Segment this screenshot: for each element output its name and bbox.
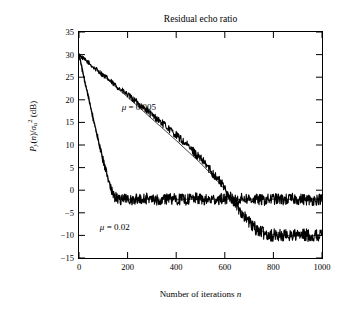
x-tick-label: 800 <box>267 262 280 272</box>
x-axis-label: Number of iterations n <box>78 289 323 299</box>
y-tick-label: −10 <box>48 230 74 240</box>
series-path <box>79 53 322 241</box>
series-path <box>79 55 322 236</box>
curve-annotation: μ = 0.005 <box>122 102 156 112</box>
figure-container: Residual echo ratio Py(n)/σu2 (dB) Numbe… <box>0 0 352 319</box>
y-tick-label: 30 <box>48 50 74 60</box>
curve-annotation: μ = 0.02 <box>100 222 130 232</box>
x-tick-label: 1000 <box>314 262 331 272</box>
y-tick-label: 15 <box>48 117 74 127</box>
y-tick-label: 0 <box>48 185 74 195</box>
series-path <box>79 55 322 205</box>
y-tick-label: −15 <box>48 253 74 263</box>
series-path <box>79 55 322 200</box>
x-tick-label: 400 <box>170 262 183 272</box>
x-tick-label: 200 <box>121 262 134 272</box>
y-axis-label: Py(n)/σu2 (dB) <box>26 56 39 196</box>
x-axis-ticks: 02004006008001000 <box>78 262 323 276</box>
y-tick-label: 20 <box>48 95 74 105</box>
y-tick-label: 5 <box>48 163 74 173</box>
y-tick-label: −5 <box>48 208 74 218</box>
x-tick-label: 600 <box>218 262 231 272</box>
y-tick-label: 10 <box>48 140 74 150</box>
chart-title: Residual echo ratio <box>78 14 323 24</box>
y-axis-ticks: −15−10−505101520253035 <box>48 31 74 259</box>
x-tick-label: 0 <box>77 262 81 272</box>
y-tick-label: 25 <box>48 72 74 82</box>
y-tick-label: 35 <box>48 27 74 37</box>
